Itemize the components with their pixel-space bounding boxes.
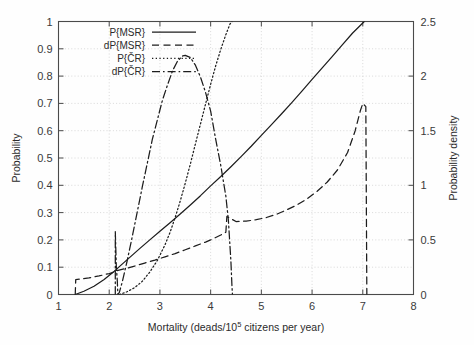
ytick-right-label: 2.5	[421, 16, 436, 28]
ytick-left-label: 0.6	[37, 125, 52, 137]
legend-label-pčr: P{ČR}	[117, 52, 145, 64]
ytick-left-label: 0.5	[37, 152, 52, 164]
ytick-right-label: 0.5	[421, 234, 436, 246]
ytick-left-label: 1	[46, 16, 52, 28]
ytick-left-label: 0.4	[37, 179, 52, 191]
ytick-left-label: 0	[46, 289, 52, 301]
xtick-label: 6	[309, 300, 315, 312]
xtick-label: 7	[360, 300, 366, 312]
chart-figure: 1234567800.10.20.30.40.50.60.70.80.9100.…	[0, 0, 474, 345]
xtick-label: 4	[208, 300, 214, 312]
y-axis-left-title: Probability	[10, 133, 22, 183]
ytick-left-label: 0.2	[37, 234, 52, 246]
chart-legend: P{MSR}dP{MSR}P{ČR}dP{ČR}	[104, 27, 196, 78]
xtick-label: 8	[410, 300, 416, 312]
series-line-dpmsr	[75, 103, 367, 294]
legend-label-pmsr: P{MSR}	[109, 27, 145, 38]
x-axis-title: Mortality (deads/105 citizens per year)	[148, 320, 324, 333]
ytick-left-label: 0.7	[37, 97, 52, 109]
xtick-label: 3	[157, 300, 163, 312]
xtick-label: 2	[106, 300, 112, 312]
ytick-left-label: 0.1	[37, 261, 52, 273]
ytick-right-label: 0	[421, 289, 427, 301]
ytick-right-label: 2	[421, 70, 427, 82]
y-axis-right-title: Probability density	[447, 115, 459, 201]
xtick-label: 5	[258, 300, 264, 312]
chart-canvas: 1234567800.10.20.30.40.50.60.70.80.9100.…	[0, 0, 474, 345]
axis-titles: ProbabilityProbability densityMortality …	[10, 115, 459, 333]
ytick-left-label: 0.9	[37, 43, 52, 55]
ytick-left-label: 0.8	[37, 70, 52, 82]
ytick-left-label: 0.3	[37, 207, 52, 219]
xtick-label: 1	[55, 300, 61, 312]
legend-label-dpmsr: dP{MSR}	[104, 40, 146, 51]
ytick-right-label: 1	[421, 179, 427, 191]
gridlines	[59, 22, 414, 295]
series-line-dpčr	[115, 55, 232, 294]
legend-label-dpčr: dP{ČR}	[112, 65, 146, 77]
x-axis-title-suffix: citizens per year)	[241, 321, 324, 333]
x-axis-title-prefix: Mortality (deads/10	[148, 321, 237, 333]
ytick-right-label: 1.5	[421, 125, 436, 137]
